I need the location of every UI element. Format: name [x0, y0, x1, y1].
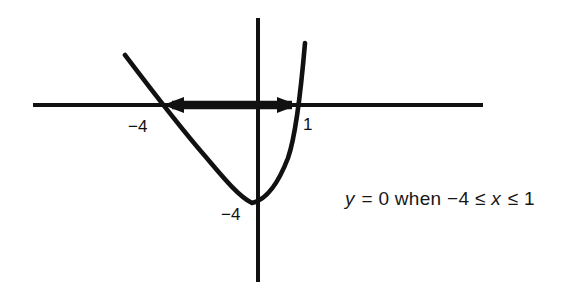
annotation-lower-bound: −4: [447, 188, 469, 209]
graph-figure: −4 1 −4 y = 0 when −4 ≤ x ≤ 1: [0, 0, 572, 292]
annotation-equals-zero: = 0 when: [361, 188, 441, 209]
vertex-value-label: −4: [221, 205, 240, 225]
right-arrowhead-icon: [277, 97, 298, 113]
annotation-var-x: x: [491, 188, 502, 209]
x-intercept-right-label: 1: [303, 115, 312, 135]
coordinate-plane-svg: [0, 0, 572, 292]
annotation-upper-bound: 1: [524, 188, 535, 209]
parabola-curve: [125, 43, 305, 203]
x-intercept-left-label: −4: [128, 117, 147, 137]
annotation-le-second: ≤: [508, 188, 519, 209]
annotation-le-first: ≤: [475, 188, 486, 209]
solution-annotation: y = 0 when −4 ≤ x ≤ 1: [345, 188, 535, 210]
annotation-var-y: y: [345, 188, 356, 209]
